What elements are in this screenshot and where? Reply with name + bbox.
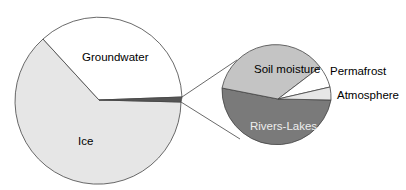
label-soil-moisture: Soil moisture <box>254 63 320 75</box>
label-atmosphere: Atmosphere <box>337 89 399 101</box>
label-rivers-lakes: Rivers-Lakes <box>250 120 317 132</box>
main-pie: Groundwater Ice <box>15 17 182 184</box>
label-groundwater: Groundwater <box>82 51 149 63</box>
detail-pie: Soil moisture Rivers-Lakes <box>222 45 331 145</box>
label-permafrost: Permafrost <box>330 65 387 77</box>
label-ice: Ice <box>78 135 93 147</box>
water-distribution-chart: Groundwater Ice Soil moisture Rivers-Lak… <box>0 0 406 190</box>
